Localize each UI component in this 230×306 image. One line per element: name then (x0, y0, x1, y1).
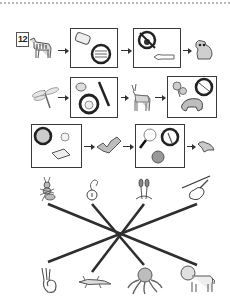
lion-icon (180, 264, 218, 294)
lizard-icon (77, 274, 113, 290)
connection-lines (0, 0, 230, 306)
seahorse-icon (38, 266, 62, 296)
octopus-icon (125, 266, 165, 296)
